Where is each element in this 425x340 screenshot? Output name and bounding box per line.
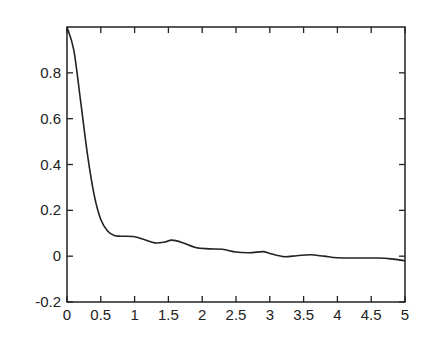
y-tick-label: 0.4 <box>40 156 61 173</box>
x-tick-label: 0 <box>63 306 71 323</box>
y-tick-label: 0.2 <box>40 201 61 218</box>
y-tick-label: 0.6 <box>40 110 61 127</box>
x-tick-label: 4.5 <box>361 306 382 323</box>
x-tick-label: 1.5 <box>158 306 179 323</box>
x-tick-label: 2 <box>198 306 206 323</box>
data-line <box>67 27 405 261</box>
x-axis: 00.511.522.533.544.55 <box>63 27 409 323</box>
y-tick-label: 0.8 <box>40 64 61 81</box>
x-tick-label: 4 <box>333 306 341 323</box>
x-tick-label: 5 <box>401 306 409 323</box>
line-chart: 00.511.522.533.544.55 -0.200.20.40.60.8 <box>0 0 425 340</box>
x-tick-label: 3.5 <box>293 306 314 323</box>
y-tick-label: 0 <box>53 247 61 264</box>
y-axis: -0.200.20.40.60.8 <box>35 64 405 310</box>
x-tick-label: 3 <box>266 306 274 323</box>
plot-frame <box>67 27 405 302</box>
x-tick-label: 2.5 <box>226 306 247 323</box>
x-tick-label: 1 <box>130 306 138 323</box>
x-tick-label: 0.5 <box>90 306 111 323</box>
y-tick-label: -0.2 <box>35 293 61 310</box>
